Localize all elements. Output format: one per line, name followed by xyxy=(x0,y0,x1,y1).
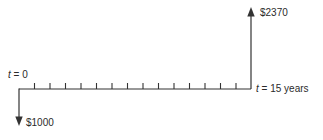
inflow-arrowhead-icon xyxy=(247,7,254,17)
cash-flow-timeline-diagram: t = 0 t = 15 years $2370 $1000 xyxy=(0,0,323,140)
outflow-amount-label: $1000 xyxy=(26,117,54,129)
end-time-value: = 15 years xyxy=(259,83,309,94)
inflow-arrow xyxy=(247,7,254,89)
inflow-amount-label: $2370 xyxy=(260,7,288,19)
outflow-arrow xyxy=(15,88,22,126)
start-time-label: t = 0 xyxy=(8,69,28,81)
axis-tick-group xyxy=(35,83,237,89)
end-time-label: t = 15 years xyxy=(256,83,309,95)
start-time-value: = 0 xyxy=(11,69,28,80)
outflow-arrowhead-icon xyxy=(15,117,22,127)
